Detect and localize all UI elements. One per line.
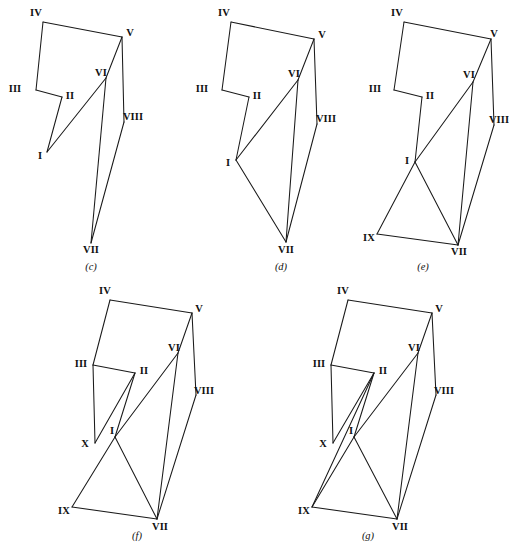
vertex-label-VI: VI [288, 69, 300, 80]
vertex-label-VII: VII [392, 522, 408, 533]
edge-V-VIII [314, 39, 317, 124]
vertex-label-IV: IV [391, 8, 403, 19]
edge-VIII-VII [91, 122, 124, 243]
edge-VI-V [418, 313, 432, 353]
vertex-label-I: I [226, 158, 230, 169]
edge-III-II [394, 90, 422, 97]
edge-I-VII [354, 437, 397, 519]
vertex-label-V: V [195, 304, 203, 315]
vertex-label-IX: IX [363, 233, 375, 244]
edge-II-I [236, 97, 249, 160]
edge-I-VII [415, 162, 458, 245]
vertex-label-I: I [38, 151, 42, 162]
vertex-label-III: III [369, 84, 382, 95]
edge-I-IX [377, 162, 415, 234]
vertex-label-IX: IX [58, 506, 70, 517]
vertex-label-VIII: VIII [489, 115, 509, 126]
vertex-label-V: V [126, 28, 134, 39]
figure-d-edges [222, 22, 317, 242]
edge-VI-VII [157, 353, 178, 519]
figure-f-edges [72, 300, 196, 519]
edge-I-IX [72, 437, 115, 507]
edge-II-I [115, 373, 135, 437]
vertex-label-VII: VII [152, 522, 168, 533]
vertex-label-VII: VII [451, 247, 467, 258]
vertex-label-VIII: VIII [123, 112, 143, 123]
edge-III-II [331, 365, 374, 373]
edge-V-VIII [432, 313, 436, 395]
vertex-label-VI: VI [463, 70, 475, 81]
vertex-label-IV: IV [30, 8, 42, 19]
vertex-label-III: III [9, 84, 22, 95]
edge-II-I [354, 373, 374, 437]
edge-V-VIII [192, 313, 196, 395]
vertex-label-IV: IV [337, 286, 349, 297]
edge-III-X [331, 365, 333, 443]
vertex-label-III: III [313, 359, 326, 370]
edge-I-VII [236, 160, 286, 242]
edge-VI-VII [397, 353, 418, 519]
edge-VI-VII [91, 78, 106, 243]
vertex-label-VI: VI [168, 343, 180, 354]
vertex-label-X: X [319, 439, 327, 450]
vertex-label-VIII: VIII [434, 386, 454, 397]
vertex-label-VI: VI [408, 343, 420, 354]
vertex-label-II: II [379, 366, 387, 377]
vertex-label-II: II [66, 91, 74, 102]
figure-c-edges [36, 22, 124, 243]
vertex-label-V: V [318, 30, 326, 41]
edge-VI-V [473, 39, 491, 82]
edge-I-VI [415, 82, 473, 162]
edge-V-VIII [122, 37, 124, 122]
vertex-label-IX: IX [298, 506, 310, 517]
vertex-label-IV: IV [99, 286, 111, 297]
edge-III-II [222, 90, 249, 97]
vertex-label-I: I [405, 156, 409, 167]
vertex-label-III: III [75, 359, 88, 370]
vertex-label-II: II [426, 91, 434, 102]
vertex-label-VIII: VIII [316, 114, 336, 125]
edge-II-I [415, 97, 422, 162]
panel-caption-d: (d) [275, 261, 287, 272]
vertex-label-V: V [490, 29, 498, 40]
edge-III-II [93, 365, 135, 373]
vertex-label-II: II [253, 91, 261, 102]
vertex-label-X: X [81, 439, 89, 450]
edge-VI-V [106, 37, 122, 78]
figure-g-edges [312, 300, 436, 519]
edge-III-X [93, 365, 95, 443]
panel-caption-c: (c) [85, 261, 97, 272]
vertex-label-VI: VI [95, 68, 107, 79]
edge-V-VIII [491, 39, 494, 125]
vertex-label-VII: VII [83, 245, 99, 256]
edge-IV-III [93, 300, 110, 365]
edge-VIII-VII [397, 395, 436, 519]
vertex-label-III: III [196, 84, 209, 95]
edge-IX-VII [312, 507, 397, 519]
edge-II-X [95, 373, 135, 443]
vertex-label-VII: VII [278, 245, 294, 256]
edge-IV-V [404, 22, 491, 39]
edge-IV-III [36, 22, 43, 90]
edge-VIII-VII [157, 395, 196, 519]
edge-VI-V [298, 39, 314, 80]
edge-I-VI [47, 78, 106, 152]
edge-IV-V [231, 22, 314, 39]
edge-IV-V [43, 22, 122, 37]
edge-I-VI [236, 80, 298, 160]
panel-caption-f: (f) [132, 530, 142, 541]
edge-IX-VII [72, 507, 157, 519]
edge-IV-III [222, 22, 231, 90]
edge-IV-V [348, 300, 432, 313]
figure-e-edges [377, 22, 494, 245]
edge-I-VII [115, 437, 157, 519]
edge-VI-V [178, 313, 192, 353]
vertex-label-V: V [435, 304, 443, 315]
edge-IV-III [331, 300, 348, 365]
panel-caption-g: (g) [362, 530, 374, 541]
edge-II-X [333, 373, 374, 443]
vertex-label-IV: IV [218, 8, 230, 19]
panel-caption-e: (e) [417, 261, 429, 272]
